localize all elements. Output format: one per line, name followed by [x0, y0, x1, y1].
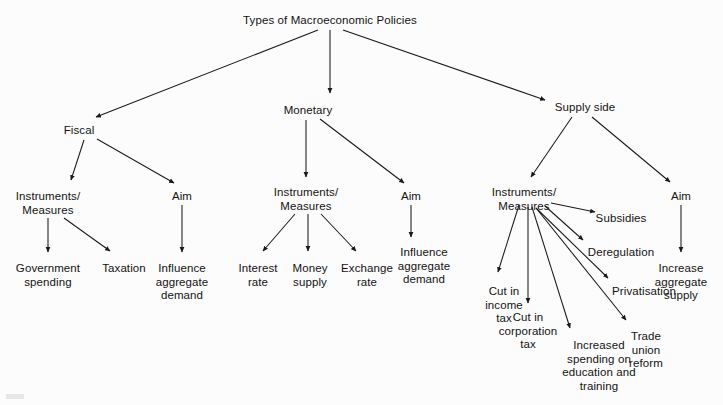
node-supply-instruments: Instruments/ Measures	[492, 186, 556, 213]
edge-fiscal-aim	[97, 139, 174, 183]
edge-fiscal-instruments-taxation	[64, 218, 110, 251]
node-trade-union-reform: Trade union reform	[629, 330, 663, 371]
node-fiscal-influence-aggregate-demand: Influence aggregate demand	[156, 262, 209, 303]
scan-artifact-mark	[6, 394, 24, 399]
node-exchange-rate: Exchange rate	[341, 262, 393, 289]
node-fiscal-aim: Aim	[172, 190, 192, 204]
node-taxation: Taxation	[102, 262, 146, 276]
node-subsidies: Subsidies	[596, 212, 647, 226]
node-money-supply: Money supply	[292, 262, 327, 289]
edge-fiscal-instruments	[71, 140, 84, 180]
node-monetary-aim: Aim	[401, 190, 421, 204]
node-government-spending: Government spending	[16, 262, 80, 289]
edge-monetary-instruments-interest-rate	[263, 214, 295, 251]
edge-root-supply-side	[343, 30, 545, 100]
diagram-canvas: Types of Macroeconomic Policies Fiscal M…	[0, 0, 723, 405]
edge-supply-instruments-cut-income-tax	[498, 205, 519, 272]
edge-monetary-instruments-exchange-rate	[321, 214, 356, 251]
node-deregulation: Deregulation	[588, 246, 654, 260]
node-fiscal-instruments: Instruments/ Measures	[16, 190, 80, 217]
node-supply-side: Supply side	[555, 101, 616, 115]
node-monetary: Monetary	[284, 104, 333, 118]
node-increased-spending-education-training: Increased spending on education and trai…	[562, 339, 636, 393]
node-supply-aim: Aim	[671, 190, 691, 204]
node-increase-aggregate-supply: Increase aggregate supply	[655, 262, 708, 303]
edge-supply-side-instruments	[531, 117, 572, 177]
node-monetary-instruments: Instruments/ Measures	[274, 186, 338, 213]
node-root: Types of Macroeconomic Policies	[243, 14, 417, 28]
node-interest-rate: Interest rate	[238, 262, 277, 289]
edge-supply-instruments-increased-spending	[532, 207, 570, 328]
edge-monetary-aim	[320, 119, 404, 183]
node-monetary-influence-aggregate-demand: Influence aggregate demand	[398, 246, 451, 287]
node-fiscal: Fiscal	[64, 124, 95, 138]
edge-supply-side-aim	[592, 117, 670, 182]
edge-supply-instruments-subsidies	[551, 203, 595, 212]
node-cut-in-corporation-tax: Cut in corporation tax	[499, 311, 558, 352]
